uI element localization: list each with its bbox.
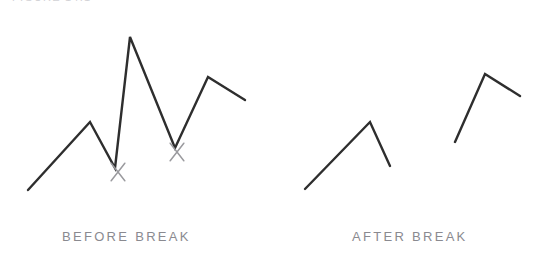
break-point-markers [111, 143, 184, 181]
caption-after-break: AFTER BREAK [352, 229, 468, 244]
after-break-segment-2 [455, 74, 520, 142]
after-break-segment-1 [305, 122, 390, 189]
figure-container: FIGURE 14.1 BEFORE BREAK AFTER BREAK [0, 0, 550, 269]
before-break-panel [28, 37, 245, 190]
before-break-trace [28, 37, 245, 190]
caption-before-break: BEFORE BREAK [62, 229, 191, 244]
after-break-panel [305, 74, 520, 189]
